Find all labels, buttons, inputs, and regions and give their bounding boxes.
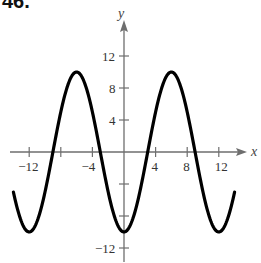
x-axis-label: x	[250, 144, 258, 159]
x-tick-label: 8	[183, 159, 190, 174]
axes: xy	[10, 6, 258, 262]
x-tick-label: 12	[215, 159, 228, 174]
x-tick-label: −4	[81, 159, 95, 174]
y-tick-label: 4	[109, 113, 116, 128]
function-graph: xy −12−448121284−12	[0, 0, 261, 263]
y-tick-label: 8	[109, 81, 116, 96]
y-tick-label: 12	[102, 49, 115, 64]
y-tick-label: −12	[95, 241, 115, 256]
x-tick-label: 4	[152, 159, 159, 174]
x-tick-label: −12	[18, 159, 38, 174]
y-axis-label: y	[116, 6, 125, 21]
